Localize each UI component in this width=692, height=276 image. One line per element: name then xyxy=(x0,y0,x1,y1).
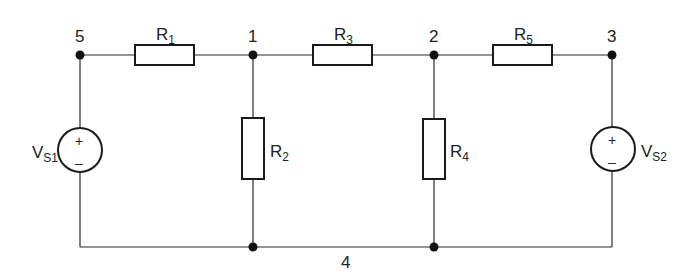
node-4-dot-right xyxy=(430,243,439,252)
node-dots xyxy=(76,51,617,252)
node-4-label: 4 xyxy=(341,253,350,272)
svg-text:R4: R4 xyxy=(450,142,469,164)
svg-text:R1: R1 xyxy=(156,25,175,47)
resistor-r3: R3 xyxy=(313,25,372,65)
node-3-label: 3 xyxy=(607,27,616,46)
svg-text:–: – xyxy=(75,155,83,171)
node-2-label: 2 xyxy=(429,27,438,46)
svg-text:R2: R2 xyxy=(270,142,289,164)
node-1-dot xyxy=(249,51,258,60)
node-5-dot xyxy=(76,51,85,60)
svg-text:VS1: VS1 xyxy=(32,143,58,165)
svg-text:+: + xyxy=(75,133,83,149)
node-3-dot xyxy=(608,51,617,60)
circuit-diagram: R1 R3 R5 R2 R4 + – VS1 + – VS2 5 1 2 xyxy=(0,0,692,276)
svg-text:R5: R5 xyxy=(514,25,533,47)
voltage-source-vs1: + – VS1 xyxy=(32,128,102,172)
svg-text:R3: R3 xyxy=(334,25,353,47)
svg-text:VS2: VS2 xyxy=(641,142,667,164)
node-2-dot xyxy=(430,51,439,60)
voltage-source-vs2: + – VS2 xyxy=(591,127,667,171)
resistor-r2: R2 xyxy=(242,118,289,179)
node-5-label: 5 xyxy=(75,27,84,46)
resistor-r4: R4 xyxy=(423,119,469,179)
svg-text:–: – xyxy=(608,154,616,170)
node-1-label: 1 xyxy=(248,27,257,46)
node-4-dot-left xyxy=(249,243,258,252)
svg-text:+: + xyxy=(608,132,616,148)
resistor-r5: R5 xyxy=(493,25,552,65)
resistor-r1: R1 xyxy=(135,25,194,65)
wires xyxy=(80,55,612,247)
